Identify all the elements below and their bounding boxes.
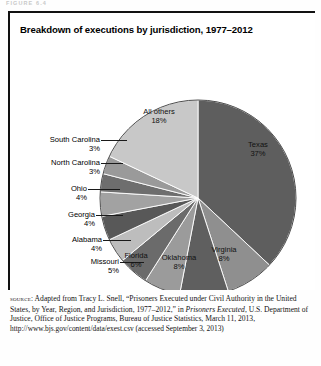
slice-label-georgia: Georgia 4% [12,210,95,229]
slice-label-all-others-name: All others [143,107,175,116]
slice-label-south-carolina-name: South Carolina [50,135,100,144]
slice-label-ohio-name: Ohio [71,184,87,193]
slice-label-ohio-pct: 4% [12,193,87,202]
slice-label-all-others: All others 18% [121,107,197,126]
slice-label-georgia-name: Georgia [68,210,95,219]
source-prefix: source: [10,295,33,303]
slice-label-all-others-pct: 18% [121,116,197,125]
slice-label-north-carolina: North Carolina 3% [12,158,100,177]
leader-line-north-carolina [101,163,123,164]
slice-label-florida-pct: 6% [108,260,164,269]
slice-label-texas-pct: 37% [228,149,288,158]
leader-line-ohio [88,189,120,190]
figure-page: FIGURE 6.4 Breakdown of executions by ju… [0,0,321,366]
slice-label-oklahoma-name: Oklahoma [162,253,197,262]
slice-label-ohio: Ohio 4% [12,184,87,203]
slice-label-alabama-pct: 4% [12,244,102,253]
slice-label-missouri: Missouri 5% [34,257,119,276]
slice-label-texas: Texas 37% [228,140,288,159]
slice-label-virginia-name: Virginia [211,245,236,254]
slice-label-florida: Florida 6% [108,251,164,270]
leader-line-georgia [96,215,123,216]
slice-label-alabama-name: Alabama [72,235,102,244]
slice-label-north-carolina-pct: 3% [12,167,100,176]
source-note: source: Adapted from Tracy L. Snell, “Pr… [10,294,313,334]
figure-number-caption: FIGURE 6.4 [6,0,47,6]
source-italic-title: Prisoners Executed [186,305,245,314]
leader-line-south-carolina [101,140,127,141]
slice-label-south-carolina: South Carolina 3% [12,135,100,154]
source-url: http://www.bjs.gov/content/data/exest.cs… [10,324,224,333]
slice-label-south-carolina-pct: 3% [12,144,100,153]
slice-label-missouri-pct: 5% [34,266,119,275]
slice-label-alabama: Alabama 4% [12,235,102,254]
slice-label-texas-name: Texas [248,140,268,149]
slice-label-florida-name: Florida [124,251,147,260]
leader-line-alabama [103,240,131,241]
figure-frame: Breakdown of executions by jurisdiction,… [8,11,315,290]
slice-label-north-carolina-name: North Carolina [51,158,100,167]
slice-label-georgia-pct: 4% [12,219,95,228]
